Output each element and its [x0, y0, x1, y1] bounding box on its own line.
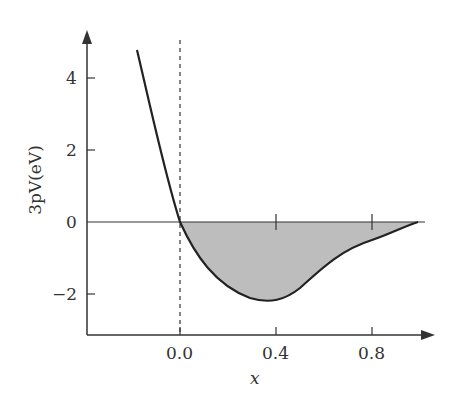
x-tick-label: 0.8: [358, 343, 385, 363]
x-axis-arrow-icon: [421, 330, 435, 340]
x-tick-label: 0.4: [262, 343, 289, 363]
x-tick-label: 0.0: [166, 343, 193, 363]
y-tick-label: −2: [52, 284, 77, 304]
y-tick-label: 4: [66, 68, 77, 88]
y-axis-label: 3pV(eV): [25, 140, 45, 220]
x-axis-label: x: [250, 368, 260, 388]
y-tick-label: 2: [66, 140, 77, 160]
y-tick-label: 0: [66, 212, 77, 232]
y-axis-arrow-icon: [82, 30, 92, 44]
